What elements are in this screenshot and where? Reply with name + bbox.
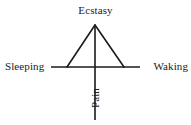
axis-label-top-ecstasy: Ecstasy [0, 4, 191, 17]
triangle-left-edge [67, 25, 95, 67]
triangle-right-edge [95, 25, 124, 67]
axis-label-bottom-pain: Pain [89, 68, 102, 108]
axis-label-left-sleeping: Sleeping [5, 60, 44, 73]
diagram-root: Ecstasy Sleeping Waking Pain [0, 0, 191, 125]
axis-label-right-waking: Waking [153, 60, 188, 73]
